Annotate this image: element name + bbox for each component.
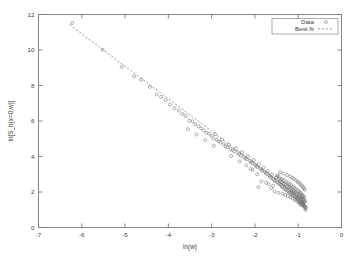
data-point <box>155 93 158 96</box>
scatter-plot-figure: -7-6-5-4-3-2-10024681012ln(w)ln[S_h(x=0,… <box>0 0 357 261</box>
data-point <box>148 85 151 88</box>
data-point <box>195 133 198 136</box>
data-point <box>238 160 241 163</box>
x-tick-label: -7 <box>36 231 42 238</box>
data-point <box>247 155 250 158</box>
data-point <box>256 173 259 176</box>
data-point <box>270 187 273 190</box>
y-tick-label: 2 <box>31 188 35 195</box>
data-point <box>120 65 123 68</box>
x-tick-label: -1 <box>295 231 301 238</box>
data-point <box>140 78 143 81</box>
data-point <box>252 159 255 162</box>
x-tick-label: -3 <box>209 231 215 238</box>
data-point <box>202 129 205 132</box>
data-point <box>260 180 263 183</box>
data-point <box>197 125 200 128</box>
x-tick-label: -4 <box>166 231 172 238</box>
data-point <box>194 123 197 126</box>
y-tick-label: 12 <box>28 11 35 18</box>
data-point <box>200 127 203 130</box>
data-point <box>177 109 180 112</box>
data-point <box>169 103 172 106</box>
data-point <box>160 95 163 98</box>
data-point <box>188 119 191 122</box>
data-point <box>212 137 215 140</box>
y-tick-label: 6 <box>31 117 35 124</box>
y-tick-label: 0 <box>31 224 35 231</box>
data-point <box>266 170 269 173</box>
data-point <box>234 147 237 150</box>
data-point <box>285 173 288 176</box>
data-point <box>186 128 189 131</box>
data-point <box>257 186 260 189</box>
data-point <box>245 164 248 167</box>
data-point <box>279 171 282 174</box>
data-point <box>212 144 215 147</box>
data-point <box>230 155 233 158</box>
x-tick-label: -2 <box>252 231 258 238</box>
legend-label-best-fit: Best fit <box>295 25 314 32</box>
data-point <box>173 107 176 110</box>
y-axis-label: ln[S_h(x=0,w)] <box>7 100 15 141</box>
data-point <box>257 162 260 165</box>
legend-marker-data <box>325 21 328 24</box>
data-point <box>181 112 184 115</box>
data-point <box>71 22 74 25</box>
data-point <box>133 75 136 78</box>
data-point <box>262 166 265 169</box>
data-point <box>282 172 285 175</box>
y-tick-label: 4 <box>31 153 35 160</box>
data-point <box>208 132 211 135</box>
data-point <box>191 120 194 123</box>
x-tick-label: 0 <box>340 231 344 238</box>
data-point <box>288 175 291 178</box>
data-point <box>164 99 167 102</box>
data-point <box>204 139 207 142</box>
data-point <box>273 190 276 193</box>
data-point <box>267 183 270 186</box>
plot-canvas: -7-6-5-4-3-2-10024681012ln(w)ln[S_h(x=0,… <box>0 0 357 261</box>
data-point <box>240 151 243 154</box>
data-point <box>277 191 280 194</box>
data-point <box>184 115 187 118</box>
data-point-group <box>71 22 308 212</box>
data-point <box>271 173 274 176</box>
x-axis-label: ln(w) <box>183 243 197 251</box>
y-tick-label: 8 <box>31 82 35 89</box>
x-tick-label: -5 <box>122 231 128 238</box>
data-point <box>221 138 224 141</box>
y-tick-label: 10 <box>28 46 35 53</box>
x-tick-label: -6 <box>79 231 85 238</box>
